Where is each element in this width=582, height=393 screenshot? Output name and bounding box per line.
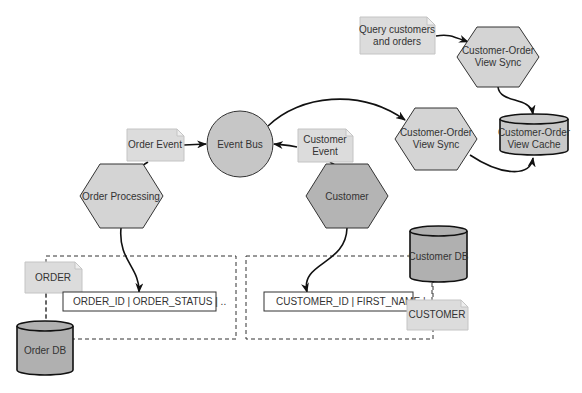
svg-text:ORDER: ORDER <box>35 272 71 283</box>
svg-text:Query customers: Query customers <box>359 24 435 35</box>
order-db: Order DB <box>17 321 73 375</box>
svg-text:Customer-Order: Customer-Order <box>462 45 535 56</box>
customer-service: Customer <box>306 164 388 228</box>
order-processing-service: Order Processing <box>80 164 163 228</box>
svg-text:CUSTOMER_ID | FIRST_NAME |: CUSTOMER_ID | FIRST_NAME | <box>276 296 425 307</box>
svg-text:Customer-Order: Customer-Order <box>400 127 473 138</box>
order-entity-note: ORDER <box>25 262 82 293</box>
svg-text:Event Bus: Event Bus <box>217 139 263 150</box>
order-table-row: ORDER_ID | ORDER_STATUS | .. <box>63 292 226 311</box>
svg-text:Customer: Customer <box>303 134 347 145</box>
event-bus: Event Bus <box>207 111 273 177</box>
svg-text:Event: Event <box>312 146 338 157</box>
svg-text:Customer: Customer <box>325 191 369 202</box>
svg-text:and orders: and orders <box>373 36 421 47</box>
svg-text:Order Event: Order Event <box>128 139 182 150</box>
svg-text:Customer DB: Customer DB <box>408 251 468 262</box>
customer-db: Customer DB <box>408 226 468 282</box>
edge-customerevent-to-eventbus <box>274 144 297 147</box>
edge-query-to-viewsync <box>436 35 468 42</box>
edge-viewsync-to-cache-top <box>498 87 533 114</box>
svg-text:Order Processing: Order Processing <box>82 191 160 202</box>
svg-text:ORDER_ID | ORDER_STATUS | ..: ORDER_ID | ORDER_STATUS | .. <box>73 296 226 307</box>
customer-order-view-cache: Customer-Order View Cache <box>498 114 571 155</box>
customer-order-view-sync-middle: Customer-Order View Sync <box>395 108 477 170</box>
svg-text:CUSTOMER: CUSTOMER <box>408 309 465 320</box>
query-customers-orders-note: Query customers and orders <box>359 17 435 54</box>
edge-customer-to-customertable <box>306 228 347 292</box>
customer-order-view-sync-top: Customer-Order View Sync <box>457 27 539 87</box>
svg-text:View Sync: View Sync <box>413 139 460 150</box>
edge-orderprocessing-to-ordertable <box>121 228 139 292</box>
svg-text:View Sync: View Sync <box>475 57 522 68</box>
edge-viewsync-to-cache-bottom <box>470 155 533 172</box>
svg-text:Order DB: Order DB <box>24 345 67 356</box>
edge-orderevent-to-eventbus <box>184 144 206 145</box>
edge-eventbus-to-viewsync <box>268 99 405 126</box>
customer-table-row: CUSTOMER_ID | FIRST_NAME | <box>264 292 425 311</box>
svg-text:Customer-Order: Customer-Order <box>498 127 571 138</box>
customer-entity-note: CUSTOMER <box>407 300 468 330</box>
order-event-note: Order Event <box>127 129 184 161</box>
architecture-diagram: Query customers and orders Customer-Orde… <box>0 0 582 393</box>
svg-text:View Cache: View Cache <box>507 139 561 150</box>
customer-event-note: Customer Event <box>298 129 353 162</box>
